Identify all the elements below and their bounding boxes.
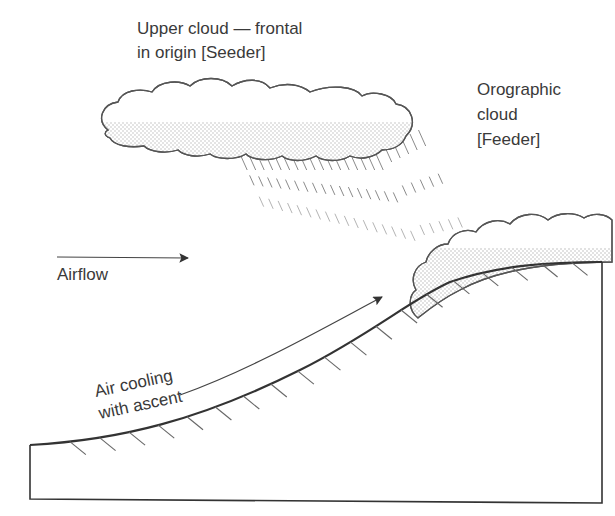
rain-streak bbox=[316, 209, 321, 219]
rain-streak bbox=[295, 181, 300, 191]
orographic-label-line3: [Feeder] bbox=[477, 130, 540, 150]
rain-streak bbox=[250, 175, 255, 185]
rain-streak bbox=[429, 223, 434, 233]
rain-streak bbox=[373, 222, 378, 232]
rain-streak bbox=[392, 227, 397, 237]
rain-streak bbox=[393, 192, 398, 202]
rain-streak bbox=[357, 188, 362, 198]
rain-streak bbox=[321, 184, 326, 194]
rain-streak bbox=[419, 130, 426, 146]
hatch-marks bbox=[70, 262, 588, 454]
rain-streak bbox=[438, 174, 443, 184]
orographic-label-line2: cloud bbox=[477, 105, 518, 125]
rain-streak bbox=[375, 190, 380, 200]
rain-streak bbox=[278, 201, 283, 211]
rain-streak bbox=[458, 217, 463, 227]
rain-streak bbox=[307, 207, 312, 217]
rain-streak bbox=[312, 183, 317, 193]
rain-streak bbox=[363, 220, 368, 230]
airflow-label: Airflow bbox=[57, 265, 108, 285]
hatch-mark bbox=[243, 396, 259, 409]
hatch-mark bbox=[350, 342, 366, 355]
hatch-mark bbox=[129, 432, 145, 445]
rain-streak bbox=[382, 224, 387, 234]
hatch-mark bbox=[158, 425, 174, 438]
rain-streak bbox=[286, 180, 291, 190]
rain-streak bbox=[269, 199, 274, 209]
rain-streak bbox=[348, 187, 353, 197]
rain-streak bbox=[344, 216, 349, 226]
rain-streak bbox=[410, 134, 417, 150]
rain-streak bbox=[411, 183, 416, 193]
rain-streak bbox=[259, 197, 264, 207]
rain-streak bbox=[448, 219, 453, 229]
hatch-mark bbox=[542, 264, 558, 277]
rain-streak bbox=[429, 177, 434, 187]
diagram-canvas: Upper cloud — frontal in origin [Seeder]… bbox=[0, 0, 615, 516]
rain-streak bbox=[354, 218, 359, 228]
airflow-arrow bbox=[57, 257, 188, 258]
rain-streak bbox=[330, 185, 335, 195]
hatch-mark bbox=[324, 357, 340, 370]
rain-streak bbox=[339, 186, 344, 196]
orographic-cloud bbox=[405, 214, 615, 328]
hatch-mark bbox=[70, 442, 86, 455]
hatch-mark bbox=[572, 262, 588, 275]
rain-streak bbox=[411, 231, 416, 241]
hatch-mark bbox=[215, 407, 231, 420]
upper-cloud-label-line1: Upper cloud — frontal bbox=[137, 19, 302, 39]
rain-streak bbox=[259, 176, 264, 186]
rain-streak bbox=[268, 177, 273, 187]
hatch-mark bbox=[271, 384, 287, 397]
rain-streak bbox=[335, 214, 340, 224]
hatch-mark bbox=[298, 371, 314, 384]
rain-streak bbox=[325, 212, 330, 222]
rain-streak bbox=[420, 225, 425, 235]
rain-streak bbox=[376, 154, 383, 170]
hatch-mark bbox=[187, 417, 203, 430]
orographic-label-line1: Orographic bbox=[477, 80, 561, 100]
hatch-mark bbox=[100, 438, 116, 451]
rain-streak bbox=[439, 221, 444, 231]
diagram-svg bbox=[0, 0, 615, 516]
upper-cloud bbox=[95, 79, 425, 168]
rain-streak bbox=[303, 182, 308, 192]
hatch-mark bbox=[376, 326, 392, 339]
rain-streak bbox=[288, 203, 293, 213]
rain-streak bbox=[401, 229, 406, 239]
rain-streak bbox=[277, 179, 282, 189]
rain-streak bbox=[402, 185, 407, 195]
rain-streak bbox=[384, 191, 389, 201]
rain-streak bbox=[420, 180, 425, 190]
rain-streak bbox=[366, 189, 371, 199]
upper-cloud-label-line2: in origin [Seeder] bbox=[137, 43, 266, 63]
rain-streak bbox=[297, 205, 302, 215]
